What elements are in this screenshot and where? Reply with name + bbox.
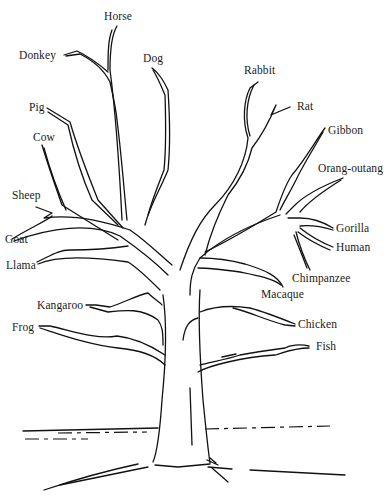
label-gibbon: Gibbon — [328, 124, 363, 136]
label-llama: Llama — [6, 259, 36, 271]
label-pig: Pig — [29, 101, 45, 113]
label-chimpanzee: Chimpanzee — [292, 272, 350, 284]
label-gorilla: Gorilla — [336, 222, 369, 234]
label-goat: Goat — [5, 233, 28, 245]
label-rabbit: Rabbit — [244, 64, 275, 76]
tree-diagram: Horse Donkey Dog Rabbit Rat Pig Cow Gibb… — [0, 0, 390, 501]
label-fish: Fish — [316, 340, 336, 352]
label-dog: Dog — [143, 52, 163, 64]
label-donkey: Donkey — [19, 49, 56, 61]
label-sheep: Sheep — [12, 189, 41, 201]
label-human: Human — [336, 241, 370, 253]
ground-lines — [23, 426, 345, 490]
trunk — [153, 290, 218, 467]
label-kangaroo: Kangaroo — [37, 299, 83, 311]
label-horse: Horse — [104, 10, 132, 22]
label-cow: Cow — [33, 131, 55, 143]
label-frog: Frog — [12, 321, 34, 333]
label-chicken: Chicken — [298, 318, 337, 330]
tree-drawing — [0, 0, 390, 501]
label-macaque: Macaque — [261, 288, 304, 300]
label-orang-outang: Orang-outang — [318, 162, 383, 174]
label-rat: Rat — [297, 100, 313, 112]
